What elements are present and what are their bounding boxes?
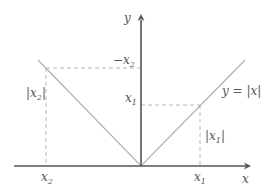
x2-tick-label: x2 <box>41 170 53 186</box>
y-axis-label: y <box>123 11 131 25</box>
x1-tick-label: x1 <box>194 170 206 186</box>
abs-x2-label: |x2| <box>26 86 46 102</box>
function-label: y = |x| <box>221 84 261 98</box>
neg-x2-label: −x2 <box>113 53 135 69</box>
y-axis-arrow-icon <box>138 14 145 21</box>
x1-y-label: x1 <box>125 91 137 107</box>
guide-lines <box>46 68 200 166</box>
abs-x1-label: |x1| <box>205 129 225 145</box>
x-axis-label: x <box>242 172 249 186</box>
abs-value-diagram: y x −x2 x1 |x2| |x1| x2 x1 y = |x| <box>0 0 268 189</box>
